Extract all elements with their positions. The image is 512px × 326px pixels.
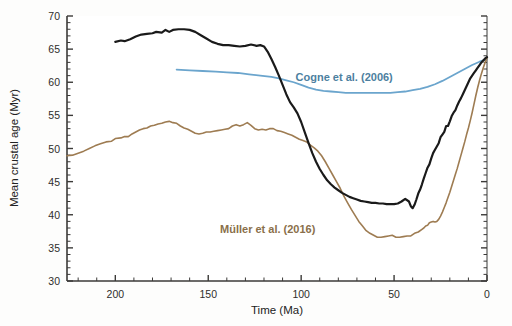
x-axis-title: Time (Ma) [251,304,303,316]
x-tick-label: 150 [199,288,217,300]
y-tick-label: 50 [48,143,60,155]
y-tick-label: 65 [48,43,60,55]
y-axis-title: Mean crustal age (Myr) [8,89,20,207]
y-tick-label: 35 [48,242,60,254]
mean-crustal-age-chart: 200150100500303540455055606570 Time (Ma)… [0,0,512,326]
y-tick-label: 60 [48,76,60,88]
x-tick-label: 50 [388,288,400,300]
y-tick-label: 30 [48,275,60,287]
series-label-cogne: Cogne et al. (2006) [296,71,394,83]
y-tick-label: 55 [48,109,60,121]
plot-area-background [67,16,487,281]
y-tick-label: 40 [48,209,60,221]
x-tick-label: 100 [292,288,310,300]
y-tick-label: 70 [48,10,60,22]
y-tick-label: 45 [48,176,60,188]
x-tick-label: 200 [107,288,125,300]
x-tick-label: 0 [484,288,490,300]
chart-figure: 200150100500303540455055606570 Time (Ma)… [0,0,512,326]
series-label-muller: Müller et al. (2016) [220,223,316,235]
